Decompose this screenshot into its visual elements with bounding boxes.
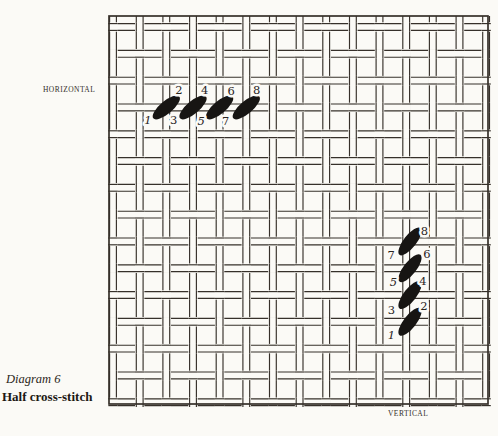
book-page: HORIZONTAL VERTICAL Diagram 6 Half cross… [0,0,498,436]
stitch-number: 5 [198,114,205,128]
stitch-number: 6 [423,247,430,261]
stitch-number: 7 [388,248,395,262]
stitch-number: 6 [228,84,235,98]
stitch-number: 5 [390,275,397,289]
stitch-number: 1 [388,328,395,342]
stitch-number: 2 [175,83,182,97]
stitch-number: 7 [222,114,229,128]
stitch-number: 3 [388,303,395,317]
stitch-number: 1 [144,113,151,127]
stitch-number: 4 [201,83,208,97]
stitch-number: 4 [419,274,426,288]
stitch-number: 8 [421,224,428,238]
stitch-number: 8 [253,83,260,97]
woven-canvas-diagram: 1234567887654321 [0,0,498,436]
stitch-number: 3 [170,113,177,127]
stitch-number: 2 [420,299,427,313]
